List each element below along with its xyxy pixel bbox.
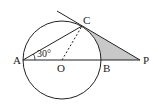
label-p: P (143, 54, 149, 66)
tangent-line-cp (57, 11, 140, 60)
label-o: O (57, 62, 65, 74)
geometry-diagram: A O B C P 30° (0, 0, 158, 105)
angle-label-30: 30° (37, 48, 51, 59)
label-c: C (83, 14, 90, 26)
label-b: B (103, 62, 110, 74)
chord-ac (23, 26, 82, 60)
label-a: A (13, 54, 21, 66)
radius-oc-dashed (62, 26, 82, 60)
angle-arc-a (33, 54, 35, 60)
